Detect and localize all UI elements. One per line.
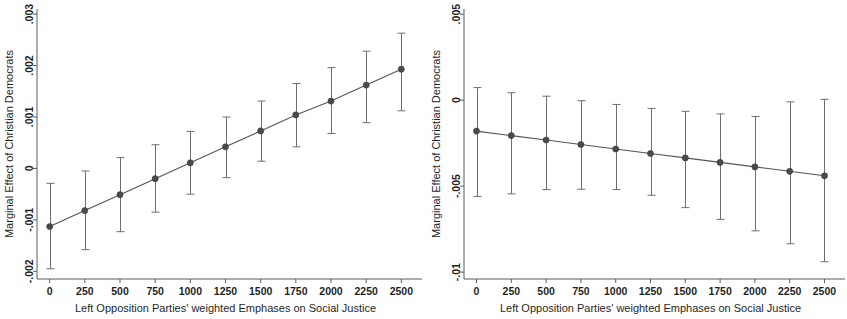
data-point bbox=[717, 159, 723, 165]
x-tick-label: 500 bbox=[537, 285, 555, 297]
x-tick-label: 500 bbox=[111, 285, 129, 297]
x-tick-label: 2500 bbox=[390, 285, 414, 297]
data-point bbox=[543, 137, 549, 143]
data-point bbox=[821, 173, 827, 179]
x-axis-title: Left Opposition Parties' weighted Emphas… bbox=[500, 302, 801, 314]
x-tick-label: 1500 bbox=[674, 285, 698, 297]
y-tick-label: 0 bbox=[450, 97, 462, 103]
data-point bbox=[293, 112, 299, 118]
chart-panel-right: -.01-.0050.00502505007501000125015001750… bbox=[424, 0, 847, 319]
data-point bbox=[613, 146, 619, 152]
data-point bbox=[258, 128, 264, 134]
y-tick-label: -.001 bbox=[23, 208, 35, 232]
data-point bbox=[117, 192, 123, 198]
y-tick-label: -.01 bbox=[450, 263, 462, 281]
y-tick-label: .003 bbox=[23, 4, 35, 25]
x-tick-label: 1750 bbox=[284, 285, 308, 297]
y-tick-label: -.002 bbox=[23, 259, 35, 283]
x-tick-label: 250 bbox=[76, 285, 94, 297]
y-tick-label: .002 bbox=[23, 55, 35, 76]
chart-canvas-left: -.002-.0010.001.002.00302505007501000125… bbox=[0, 0, 424, 319]
y-axis-title: Marginal Effect of Christian Democrats bbox=[430, 49, 442, 238]
chart-canvas-right: -.01-.0050.00502505007501000125015001750… bbox=[424, 0, 847, 319]
data-point bbox=[787, 168, 793, 174]
data-point bbox=[682, 155, 688, 161]
y-tick-label: .005 bbox=[450, 4, 462, 25]
x-tick-label: 2250 bbox=[778, 285, 802, 297]
x-tick-label: 2250 bbox=[354, 285, 378, 297]
x-tick-label: 1250 bbox=[639, 285, 663, 297]
data-point bbox=[363, 82, 369, 88]
data-point bbox=[82, 208, 88, 214]
marginal-effects-figure: -.002-.0010.001.002.00302505007501000125… bbox=[0, 0, 847, 319]
data-point bbox=[187, 160, 193, 166]
chart-panel-left: -.002-.0010.001.002.00302505007501000125… bbox=[0, 0, 424, 319]
x-tick-label: 2000 bbox=[319, 285, 343, 297]
data-point bbox=[647, 150, 653, 156]
data-point bbox=[222, 144, 228, 150]
y-axis-title: Marginal Effect of Christian Democrats bbox=[3, 49, 15, 238]
data-point bbox=[752, 164, 758, 170]
y-tick-label: -.005 bbox=[450, 174, 462, 198]
data-point bbox=[473, 128, 479, 134]
x-tick-label: 1250 bbox=[214, 285, 238, 297]
data-point bbox=[508, 133, 514, 139]
x-tick-label: 0 bbox=[47, 285, 53, 297]
x-tick-label: 1500 bbox=[249, 285, 273, 297]
data-point bbox=[328, 98, 334, 104]
data-point bbox=[152, 176, 158, 182]
x-tick-label: 0 bbox=[474, 285, 480, 297]
x-axis-title: Left Opposition Parties' weighted Emphas… bbox=[75, 302, 376, 314]
data-point bbox=[47, 223, 53, 229]
x-tick-label: 1000 bbox=[179, 285, 203, 297]
x-tick-label: 750 bbox=[146, 285, 164, 297]
x-tick-label: 250 bbox=[503, 285, 521, 297]
y-tick-label: 0 bbox=[23, 165, 35, 171]
x-tick-label: 1000 bbox=[604, 285, 628, 297]
x-tick-label: 1750 bbox=[708, 285, 732, 297]
y-tick-label: .001 bbox=[23, 107, 35, 128]
x-tick-label: 750 bbox=[572, 285, 590, 297]
data-point bbox=[398, 66, 404, 72]
data-point bbox=[578, 141, 584, 147]
x-tick-label: 2500 bbox=[813, 285, 837, 297]
x-tick-label: 2000 bbox=[743, 285, 767, 297]
